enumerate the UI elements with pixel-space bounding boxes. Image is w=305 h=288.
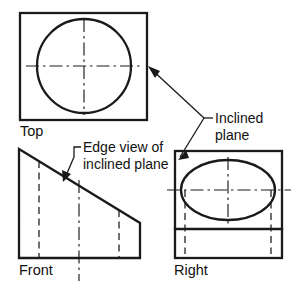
view-right: Right xyxy=(167,151,291,278)
orthographic-projection-drawing: Top Front Right Inclin xyxy=(0,0,305,288)
view-label-top: Top xyxy=(20,123,43,139)
annotation-inclined-plane: Inclined plane xyxy=(148,66,263,160)
technical-drawing-canvas: Top Front Right Inclin xyxy=(0,0,305,288)
edge-view-label-line1: Edge view of xyxy=(83,139,163,155)
view-label-front: Front xyxy=(19,262,53,278)
annotation-edge-view: Edge view of inclined plane xyxy=(62,139,169,182)
inclined-plane-label-line2: plane xyxy=(215,127,249,143)
inclined-plane-leader-to-top-view xyxy=(150,68,204,118)
view-label-right: Right xyxy=(174,262,208,278)
edge-view-leader-corner xyxy=(74,147,81,157)
view-top: Top xyxy=(20,13,147,139)
inclined-plane-label-line1: Inclined xyxy=(215,110,263,126)
edge-view-label-line2: inclined plane xyxy=(83,156,169,172)
